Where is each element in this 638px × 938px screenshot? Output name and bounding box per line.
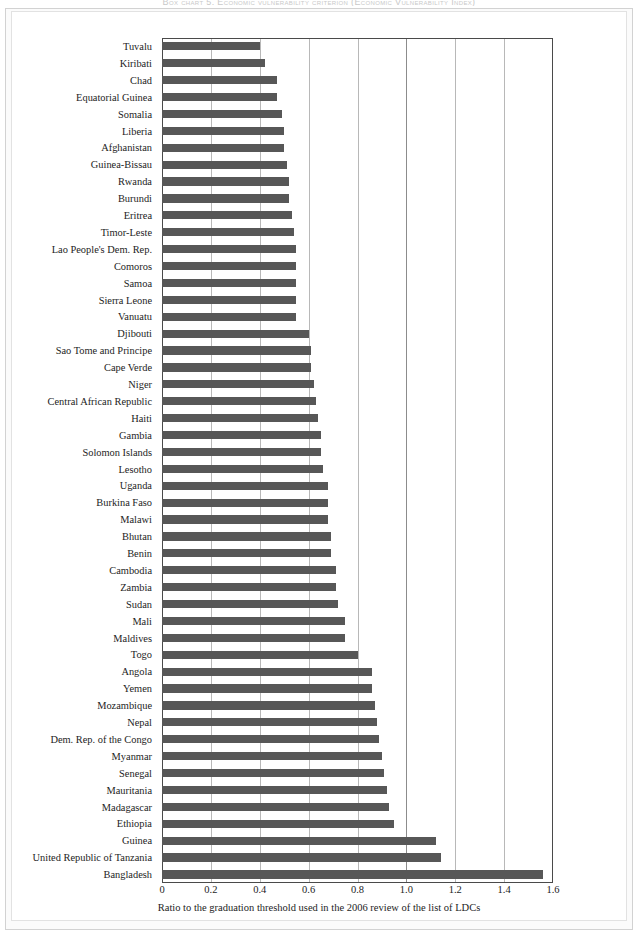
bar-row [162, 815, 553, 832]
x-tick-label: 0.4 [253, 884, 266, 895]
bar [162, 786, 387, 794]
category-label: Gambia [119, 427, 152, 444]
bar [162, 330, 309, 338]
bar-row [162, 461, 553, 478]
category-label: Solomon Islands [82, 444, 152, 461]
bar [162, 769, 384, 777]
bar-row [162, 427, 553, 444]
bar-row [162, 596, 553, 613]
bar [162, 59, 265, 67]
bar [162, 566, 336, 574]
bar [162, 499, 328, 507]
bar-row [162, 477, 553, 494]
x-tick-label: 0.6 [302, 884, 315, 895]
bar-row [162, 579, 553, 596]
bar-chart: TuvaluKiribatiChadEquatorial GuineaSomal… [0, 0, 638, 938]
bar [162, 161, 287, 169]
bar-row [162, 275, 553, 292]
category-label: Comoros [114, 258, 152, 275]
bar [162, 93, 277, 101]
category-label: Cape Verde [104, 359, 152, 376]
bar-row [162, 714, 553, 731]
category-label: Nepal [127, 714, 152, 731]
bar [162, 803, 389, 811]
x-tick-label: 0 [159, 884, 164, 895]
bar-series [162, 38, 553, 883]
bar-row [162, 156, 553, 173]
category-label: Guinea [122, 832, 152, 849]
category-label: Vanuatu [118, 308, 152, 325]
value-axis-ticks: 00.20.40.60.81.01.21.41.6 [162, 884, 553, 900]
category-label: Guinea-Bissau [91, 156, 152, 173]
x-tick-label: 0.8 [351, 884, 364, 895]
bar [162, 853, 441, 861]
category-label: Kiribati [120, 55, 152, 72]
bar [162, 127, 284, 135]
x-tick-label: 1.2 [449, 884, 462, 895]
category-label: Myanmar [112, 748, 152, 765]
bar [162, 448, 321, 456]
bar-row [162, 494, 553, 511]
bar-row [162, 748, 553, 765]
bar-row [162, 393, 553, 410]
bar-row [162, 849, 553, 866]
category-label: Afghanistan [101, 139, 152, 156]
bar [162, 414, 318, 422]
bar-row [162, 511, 553, 528]
category-axis-labels: TuvaluKiribatiChadEquatorial GuineaSomal… [0, 38, 158, 883]
category-label: Djibouti [117, 325, 152, 342]
bar-row [162, 173, 553, 190]
bar [162, 346, 311, 354]
category-label: Samoa [124, 275, 152, 292]
bar-row [162, 697, 553, 714]
category-label: Zambia [120, 579, 152, 596]
category-label: Somalia [118, 106, 152, 123]
category-label: Yemen [123, 680, 152, 697]
bar-row [162, 731, 553, 748]
bar-row [162, 410, 553, 427]
category-label: Burundi [118, 190, 152, 207]
bar-row [162, 545, 553, 562]
bar [162, 668, 372, 676]
bar [162, 634, 345, 642]
bar-row [162, 444, 553, 461]
bar-row [162, 325, 553, 342]
bar [162, 735, 379, 743]
figure-page: Box chart 5. Economic vulnerability crit… [0, 0, 638, 938]
bar [162, 465, 323, 473]
bar [162, 870, 543, 878]
bar-row [162, 528, 553, 545]
category-label: Togo [131, 646, 152, 663]
bar [162, 76, 277, 84]
bar-row [162, 38, 553, 55]
bar-row [162, 376, 553, 393]
category-label: Senegal [119, 765, 152, 782]
category-label: United Republic of Tanzania [33, 849, 152, 866]
bar-row [162, 832, 553, 849]
bar-row [162, 359, 553, 376]
bar-row [162, 308, 553, 325]
bar [162, 515, 328, 523]
category-label: Lao People's Dem. Rep. [52, 241, 152, 258]
bar-row [162, 630, 553, 647]
bar [162, 144, 284, 152]
bar [162, 600, 338, 608]
category-label: Angola [121, 663, 152, 680]
bar [162, 837, 436, 845]
category-label: Sudan [126, 596, 152, 613]
bar-row [162, 241, 553, 258]
category-label: Niger [128, 376, 152, 393]
category-label: Ethiopia [117, 815, 152, 832]
bar [162, 549, 331, 557]
bar [162, 363, 311, 371]
bar-row [162, 680, 553, 697]
category-label: Bhutan [122, 528, 152, 545]
bar-row [162, 224, 553, 241]
category-label: Benin [127, 545, 152, 562]
bar [162, 262, 296, 270]
category-label: Bangladesh [104, 866, 152, 883]
bar-row [162, 123, 553, 140]
bar-row [162, 765, 553, 782]
category-label: Uganda [120, 477, 152, 494]
bar [162, 211, 292, 219]
